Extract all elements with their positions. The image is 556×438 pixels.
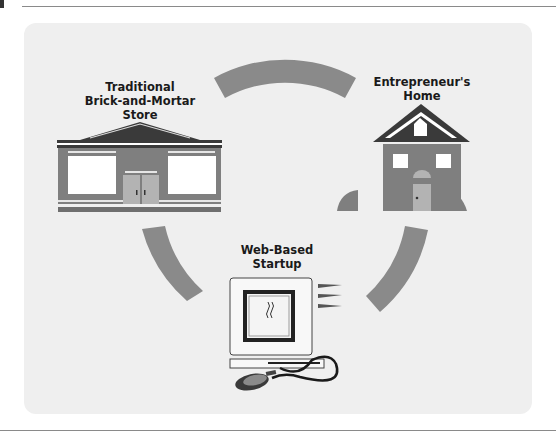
store-label: Traditional Brick-and-Mortar Store xyxy=(70,80,210,122)
home-label-line2: Home xyxy=(370,89,474,103)
home-label-line1: Entrepreneur's xyxy=(370,75,474,89)
bottom-rule xyxy=(0,430,556,431)
arc-top xyxy=(214,60,356,98)
diagram-art xyxy=(0,0,556,438)
home-label: Entrepreneur's Home xyxy=(370,75,474,103)
storefront-icon xyxy=(57,122,222,212)
store-label-line1: Traditional xyxy=(70,80,210,94)
web-label-line2: Startup xyxy=(232,257,322,271)
web-label-line1: Web-Based xyxy=(232,243,322,257)
store-label-line2: Brick-and-Mortar Store xyxy=(70,94,210,122)
web-label: Web-Based Startup xyxy=(232,243,322,271)
house-icon xyxy=(337,104,470,211)
arc-left xyxy=(142,226,203,301)
arc-right xyxy=(366,226,428,312)
computer-icon xyxy=(230,278,342,393)
